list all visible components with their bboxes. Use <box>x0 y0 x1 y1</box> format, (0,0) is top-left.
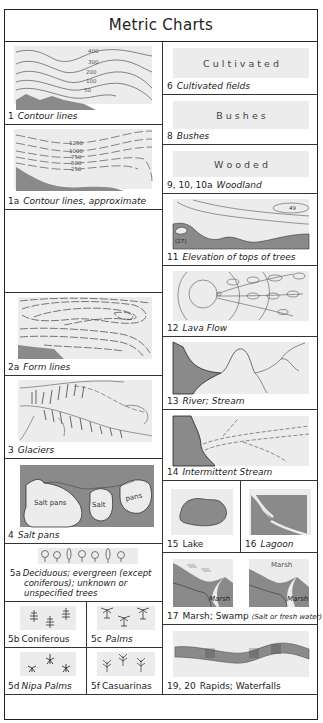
caption-marsh: 17Marsh; Swamp (Salt or fresh water) <box>167 611 322 621</box>
svg-text:Salt: Salt <box>92 501 106 509</box>
caption-intermittent: 14Intermittent Stream <box>167 467 272 477</box>
legend-lava-flow: 12Lava Flow <box>163 266 318 337</box>
legend-lake: 15Lake <box>163 481 241 553</box>
svg-text:Marsh: Marsh <box>209 595 230 603</box>
page-title: Metric Charts <box>4 9 318 42</box>
caption-glaciers: 3Glaciers <box>8 445 54 455</box>
caption-deciduous: 5aDeciduous; evergreen (except coniferou… <box>10 568 151 598</box>
caption-palms: 5cPalms <box>91 634 133 644</box>
legend-deciduous-trees: 5aDeciduous; evergreen (except coniferou… <box>4 544 163 602</box>
caption-nipa-palms: 5dNipa Palms <box>8 681 72 691</box>
legend-casuarinas: 5fCasuarinas <box>87 648 163 695</box>
svg-text:100: 100 <box>86 78 97 84</box>
legend-contour-lines: 400 300 200 100 50 1Contour lines <box>4 42 163 125</box>
legend-elevation-tree-tops: 49 (27) 11Elevation of tops of trees <box>163 194 318 266</box>
svg-text:200: 200 <box>86 69 97 75</box>
caption-bushes: 8Bushes <box>167 131 209 141</box>
empty-cell <box>4 210 163 293</box>
svg-text:(27): (27) <box>175 238 186 244</box>
caption-rapids: 19, 20Rapids; Waterfalls <box>167 681 281 691</box>
legend-river-stream: 13River; Stream <box>163 337 318 410</box>
caption-form-lines: 2aForm lines <box>8 362 70 372</box>
legend-form-lines: 2aForm lines <box>4 293 163 376</box>
svg-text:250: 250 <box>71 166 82 172</box>
svg-text:300: 300 <box>88 59 99 65</box>
legend-coniferous: 5bConiferous <box>4 602 87 648</box>
caption-lava-flow: 12Lava Flow <box>167 323 227 333</box>
svg-text:Marsh: Marsh <box>287 595 308 603</box>
legend-glaciers: 3Glaciers <box>4 376 163 459</box>
svg-text:50: 50 <box>84 87 91 93</box>
caption-river: 13River; Stream <box>167 396 244 406</box>
legend-rapids-waterfalls: 19, 20Rapids; Waterfalls <box>163 625 318 695</box>
legend-woodland: W o o d e d 9, 10, 10aWoodland <box>163 145 318 194</box>
svg-text:Marsh: Marsh <box>271 561 292 569</box>
caption-cultivated: 6Cultivated fields <box>167 81 250 91</box>
legend-salt-pans: Salt pans Salt pans 4Salt pans <box>4 459 163 544</box>
caption-salt-pans: 4Salt pans <box>8 530 59 540</box>
caption-woodland: 9, 10, 10aWoodland <box>167 180 262 190</box>
legend-palms: 5cPalms <box>87 602 163 648</box>
svg-text:400: 400 <box>88 48 99 54</box>
legend-marsh-swamp: Marsh Marsh Marsh 17Marsh; Swamp (Salt o… <box>163 553 318 625</box>
caption-casuarinas: 5fCasuarinas <box>91 681 152 691</box>
caption-coniferous: 5bConiferous <box>8 634 70 644</box>
caption-elevation: 11Elevation of tops of trees <box>167 252 295 262</box>
legend-contour-lines-approximate: 1250 1000 750 500 250 1aContour lines, a… <box>4 125 163 210</box>
caption-contour-approximate: 1aContour lines, approximate <box>8 196 146 206</box>
legend-nipa-palms: 5dNipa Palms <box>4 648 87 695</box>
svg-text:Salt pans: Salt pans <box>34 499 67 507</box>
legend-bushes: B u s h e s 8Bushes <box>163 95 318 145</box>
svg-text:1250: 1250 <box>69 140 83 146</box>
caption-lagoon: 16Lagoon <box>245 539 293 549</box>
caption-lake: 15Lake <box>167 539 203 549</box>
legend-intermittent-stream: 14Intermittent Stream <box>163 410 318 481</box>
legend-cultivated-fields: C u l t i v a t e d 6Cultivated fields <box>163 42 318 95</box>
legend-lagoon: 16Lagoon <box>241 481 318 553</box>
svg-text:49: 49 <box>289 205 296 211</box>
caption-contour-lines: 1Contour lines <box>8 111 77 121</box>
